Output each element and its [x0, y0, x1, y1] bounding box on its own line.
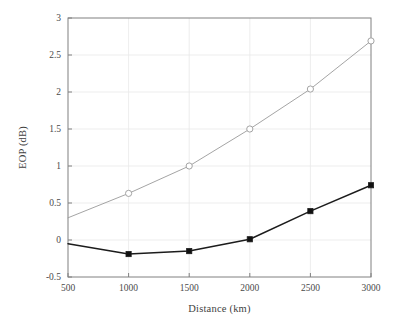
y-tick-label: 3 — [56, 13, 61, 23]
data-point-marker — [308, 209, 313, 214]
data-point-marker — [368, 183, 373, 188]
x-tick-label: 2500 — [301, 283, 320, 293]
x-tick-label: 3000 — [362, 283, 381, 293]
y-tick-label: 0 — [56, 235, 61, 245]
x-tick-label: 500 — [61, 283, 76, 293]
y-tick-label: -0.5 — [46, 272, 61, 282]
figure-container: -0.500.511.522.5350010001500200025003000… — [0, 0, 407, 323]
data-point-marker — [247, 126, 253, 132]
x-tick-label: 1000 — [119, 283, 138, 293]
data-point-marker — [368, 38, 374, 44]
x-tick-label: 2000 — [240, 283, 259, 293]
data-series-group — [68, 38, 374, 257]
y-tick-label: 0.5 — [49, 198, 61, 208]
data-point-marker — [307, 86, 313, 92]
data-point-marker — [186, 163, 192, 169]
y-axis-label: EOP (dB) — [17, 126, 29, 169]
data-point-marker — [126, 251, 131, 256]
y-tick-label: 1.5 — [49, 124, 61, 134]
series-upper-curve — [68, 38, 374, 218]
x-tick-label: 1500 — [180, 283, 199, 293]
y-tick-label: 1 — [56, 161, 61, 171]
x-axis-label: Distance (km) — [188, 303, 251, 315]
series-lower-curve — [68, 183, 374, 257]
y-tick-label: 2.5 — [49, 50, 61, 60]
y-tick-label: 2 — [56, 87, 61, 97]
series-line — [68, 185, 371, 254]
chart-canvas: -0.500.511.522.5350010001500200025003000… — [0, 0, 407, 323]
data-point-marker — [187, 249, 192, 254]
data-point-marker — [247, 237, 252, 242]
data-point-marker — [126, 190, 132, 196]
